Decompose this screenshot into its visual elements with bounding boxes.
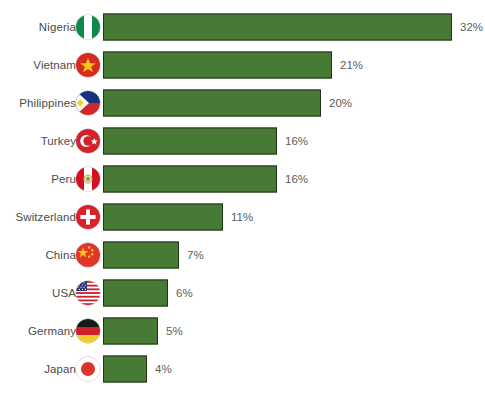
country-label: USA xyxy=(52,287,76,299)
chart-row: Philippines20% xyxy=(0,84,485,122)
flag-turkey-icon xyxy=(76,129,100,153)
bar-value-label: 4% xyxy=(155,363,172,375)
chart-row: Peru16% xyxy=(0,160,485,198)
country-label: China xyxy=(45,249,76,261)
flag-philippines-icon xyxy=(76,91,100,115)
bar-value-label: 11% xyxy=(231,211,253,223)
bar-value-label: 21% xyxy=(340,59,363,71)
bar xyxy=(103,356,147,383)
flag-vietnam-icon xyxy=(76,53,100,77)
country-label: Germany xyxy=(28,325,76,337)
flag-switzerland-icon xyxy=(76,205,100,229)
flag-nigeria-icon xyxy=(76,15,100,39)
bar-value-label: 16% xyxy=(285,135,308,147)
country-label: Nigeria xyxy=(39,21,76,33)
bar xyxy=(103,318,158,345)
horizontal-bar-chart: Nigeria32%Vietnam21%Philippines20%Turkey… xyxy=(0,0,485,405)
bar xyxy=(103,52,332,79)
bar xyxy=(103,90,321,117)
chart-row: Japan4% xyxy=(0,350,485,388)
bar xyxy=(103,204,223,231)
bar-value-label: 20% xyxy=(329,97,352,109)
bar xyxy=(103,166,277,193)
country-label: Peru xyxy=(51,173,76,185)
country-label: Philippines xyxy=(19,97,76,109)
chart-row: Switzerland11% xyxy=(0,198,485,236)
chart-row: Turkey16% xyxy=(0,122,485,160)
bar xyxy=(103,14,452,41)
bar xyxy=(103,280,168,307)
chart-row: Vietnam21% xyxy=(0,46,485,84)
bar-value-label: 32% xyxy=(460,21,483,33)
chart-row: USA6% xyxy=(0,274,485,312)
bar-value-label: 7% xyxy=(187,249,204,261)
flag-germany-icon xyxy=(76,319,100,343)
flag-china-icon xyxy=(76,243,100,267)
country-label: Vietnam xyxy=(33,59,76,71)
clipped-title-strip xyxy=(0,0,485,5)
country-label: Japan xyxy=(44,363,76,375)
flag-japan-icon xyxy=(76,357,100,381)
chart-row: China7% xyxy=(0,236,485,274)
bar-value-label: 5% xyxy=(166,325,183,337)
flag-peru-icon xyxy=(76,167,100,191)
country-label: Turkey xyxy=(41,135,76,147)
bar-value-label: 16% xyxy=(285,173,308,185)
flag-usa-icon xyxy=(76,281,100,305)
bar-value-label: 6% xyxy=(176,287,193,299)
chart-row: Nigeria32% xyxy=(0,8,485,46)
country-label: Switzerland xyxy=(15,211,76,223)
bar xyxy=(103,128,277,155)
chart-row: Germany5% xyxy=(0,312,485,350)
bar xyxy=(103,242,179,269)
